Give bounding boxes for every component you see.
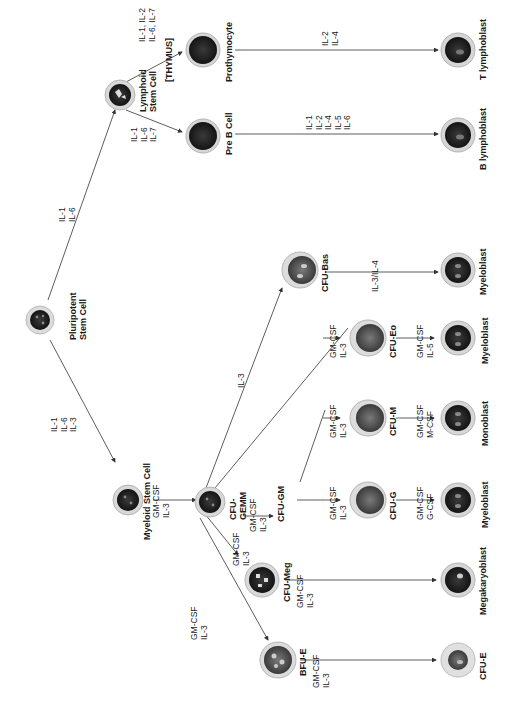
cell-cfu-e — [441, 643, 475, 677]
cell-tlympho — [441, 33, 475, 67]
label-cfu-bas: CFU-Bas — [320, 254, 330, 292]
cell-cfu-meg — [245, 563, 279, 597]
label-blympho: B lymphoblast — [478, 108, 488, 170]
cell-monoblast — [441, 401, 475, 435]
label-myeloblast-g: Myeloblast — [480, 481, 490, 528]
cytokines-pluri-myeloid: IL-1IL-6IL-3 — [50, 417, 79, 432]
cell-cfu-bas — [282, 252, 318, 288]
cell-cfu-m — [350, 400, 386, 436]
cell-myeloblast-g — [441, 483, 475, 517]
label-megakaryoblast: Megakaryoblast — [478, 547, 488, 615]
cytokines-eo-myeloblast: GM-CSFIL-5 — [416, 324, 435, 358]
edges — [48, 50, 438, 660]
cell-blympho — [441, 118, 475, 152]
cell-megakaryoblast — [441, 563, 475, 597]
cytokines-m-monoblast: GM-CSFM-CSF — [416, 404, 435, 438]
label-cfu-e: CFU-E — [478, 653, 488, 681]
label-cfu-g: CFU-G — [388, 492, 398, 521]
label-pluripotent: PluripotentStem Cell — [68, 293, 88, 341]
label-preb: Pre B Cell — [224, 112, 234, 155]
cell-myeloid — [113, 485, 143, 515]
cytokines-meg-megakaryoblast: GM-CSFIL-3 — [296, 574, 315, 608]
label-cfu-gm: CFU-GM — [276, 486, 286, 522]
label-tlympho: T lymphoblast — [478, 19, 488, 80]
label-cfu-m: CFU-M — [388, 407, 398, 436]
cell-cfu-eo — [350, 320, 386, 356]
edge-pluri-lymphoid — [48, 110, 115, 300]
cell-prothymocyte — [186, 33, 220, 67]
label-myeloblast-bas: Myeloblast — [478, 248, 488, 295]
cytokines-gemm-gm: GM-CSFIL-3 — [249, 498, 268, 532]
cytokines-lymphoid-preb: IL-1IL-6IL-7 — [130, 127, 159, 142]
cytokines-gemm-bas: IL-3 — [237, 373, 247, 388]
cytokines-lymphoid-prothymocyte: IL-1, IL-2IL-6, IL-7 — [138, 8, 157, 42]
cytokines-gemm-eo: GM-CSFIL-3 — [329, 324, 348, 358]
label-cfu-gemm: CFU-GEMM — [228, 492, 248, 520]
cytokines-myeloid-gemm: GM-CSFIL-3 — [152, 484, 171, 518]
cytokines-gemm-bfue: GM-CSFIL-3 — [190, 606, 209, 640]
cell-cfu-gemm — [195, 487, 225, 517]
cell-pluripotent — [26, 306, 54, 334]
diagram-canvas — [0, 0, 519, 714]
label-cfu-meg: CFU-Meg — [282, 563, 292, 603]
cells — [26, 33, 475, 678]
edge-gemm-bas — [206, 288, 282, 488]
cytokines-gm-m: GM-CSFIL-3 — [329, 404, 348, 438]
cytokines-gemm-meg: GM-CSFIL-3 — [232, 532, 251, 566]
cytokines-prothymocyte-tlympho: IL-2IL-4 — [321, 31, 340, 46]
label-lymphoid: LymphoidStem Cell — [138, 69, 158, 112]
cell-myeloblast-eo — [441, 321, 475, 355]
label-prothymocyte: Prothymocyte — [224, 22, 234, 82]
label-monoblast: Monoblast — [480, 401, 490, 446]
cell-preb — [186, 119, 220, 153]
cell-myeloblast-bas — [441, 253, 475, 287]
cytokines-bas-myeloblast: IL-3/IL-4 — [371, 260, 381, 292]
label-thymus: [THYMUS] — [164, 38, 174, 82]
cytokines-g-myeloblast: GM-CSFG-CSF — [416, 486, 435, 520]
edge-pluri-myeloid — [50, 340, 115, 462]
label-myeloblast-eo: Myeloblast — [480, 317, 490, 364]
cell-bfu-e — [260, 642, 296, 678]
cell-cfu-g — [350, 482, 386, 518]
label-cfu-eo: CFU-Eo — [388, 325, 398, 358]
cytokines-gm-g: GM-CSFIL-3 — [329, 486, 348, 520]
cytokines-pluri-lymphoid: IL-1IL-6 — [58, 207, 77, 222]
cytokines-preb-blympho: IL-1IL-2IL-4IL-5IL-6 — [305, 115, 353, 130]
label-bfu-e: BFU-E — [298, 649, 308, 677]
cell-lymphoid — [105, 80, 135, 110]
edge-gm-m — [300, 410, 325, 482]
cytokines-bfue-cfue: GM-CSFIL-3 — [312, 654, 331, 688]
